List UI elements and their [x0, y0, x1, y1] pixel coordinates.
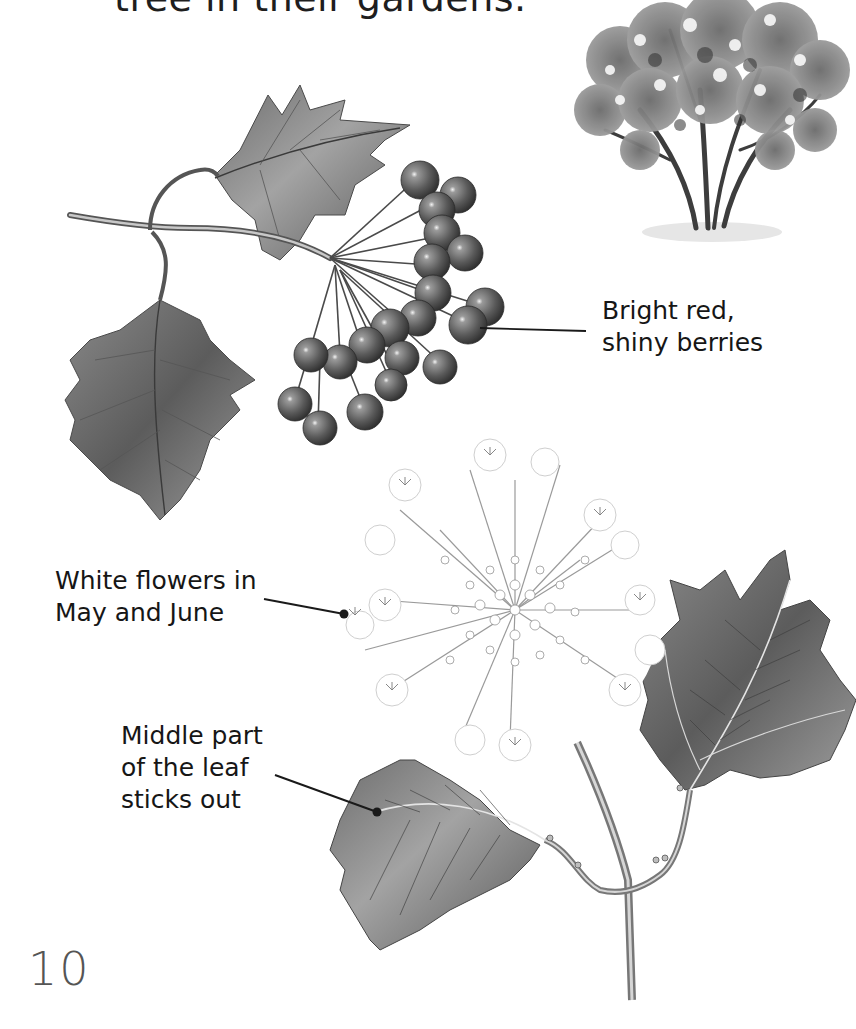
flowers-label-line1: White flowers in: [55, 565, 257, 597]
page-number: 10: [28, 942, 91, 996]
flowers-leader-line: [264, 599, 349, 619]
flower-branch-illustration: [330, 439, 856, 1000]
book-page: tree in their gardens.: [0, 0, 856, 1029]
berries-leader-line: [480, 328, 586, 331]
botanical-illustrations: [0, 0, 856, 1029]
leaf-label-line1: Middle part: [121, 720, 263, 752]
leaf-label-line2: of the leaf: [121, 752, 263, 784]
flowers-label-line2: May and June: [55, 597, 257, 629]
leaf-label-line3: sticks out: [121, 784, 263, 816]
flowers-label: White flowers in May and June: [55, 565, 257, 629]
leaf-label: Middle part of the leaf sticks out: [121, 720, 263, 816]
shrub-illustration: [574, 0, 850, 242]
berries-label-line2: shiny berries: [602, 327, 763, 359]
flower-umbel: [345, 439, 665, 761]
berries-label-line1: Bright red,: [602, 295, 763, 327]
berries-label: Bright red, shiny berries: [602, 295, 763, 359]
